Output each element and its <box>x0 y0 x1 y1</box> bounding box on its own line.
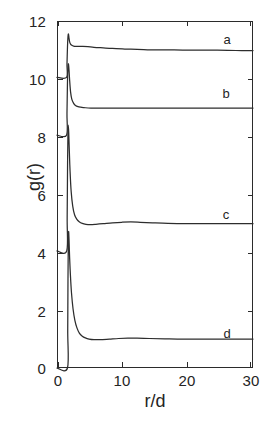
y-axis-label: g(r) <box>25 137 43 217</box>
curves-plot-area <box>57 21 253 368</box>
figure-canvas: 12 10 8 6 4 2 0 g(r) a b c d 0 10 20 30 … <box>0 0 276 422</box>
y-tick-label-10: 10 <box>12 72 46 87</box>
y-tick-label-4: 4 <box>12 246 46 261</box>
y-tick-label-2: 2 <box>12 304 46 319</box>
x-tick-label-10: 10 <box>102 373 142 388</box>
curve-d <box>57 231 253 370</box>
curve-label-d: d <box>220 327 234 340</box>
curve-c <box>57 125 253 253</box>
curve-label-a: a <box>220 33 234 46</box>
x-tick-label-30: 30 <box>231 373 271 388</box>
y-tick-label-12: 12 <box>12 14 46 29</box>
x-tick-label-0: 0 <box>38 373 78 388</box>
x-tick-label-20: 20 <box>167 373 207 388</box>
curve-label-b: b <box>219 87 233 100</box>
curve-label-c: c <box>219 208 233 221</box>
x-axis-label: r/d <box>57 392 253 410</box>
